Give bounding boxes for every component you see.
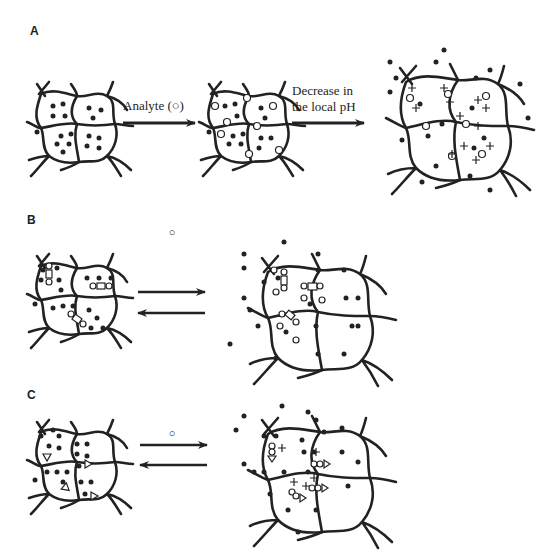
gel-b-released: [228, 240, 397, 387]
panel-b: ○: [27, 226, 396, 386]
panel-c: ○: [27, 404, 396, 549]
panel-a: [27, 48, 534, 197]
hydrogel-diagram: ○: [0, 0, 551, 554]
gel-a-initial: [27, 82, 133, 176]
gel-b-bound: [27, 254, 133, 348]
gel-a-swollen: [386, 48, 534, 197]
arrow-label-c: ○: [169, 427, 176, 439]
gel-c-released: [234, 404, 397, 549]
gel-c-bound: [27, 420, 133, 514]
arrow-label-b: ○: [169, 226, 176, 238]
gel-a-analyte: [199, 82, 305, 176]
